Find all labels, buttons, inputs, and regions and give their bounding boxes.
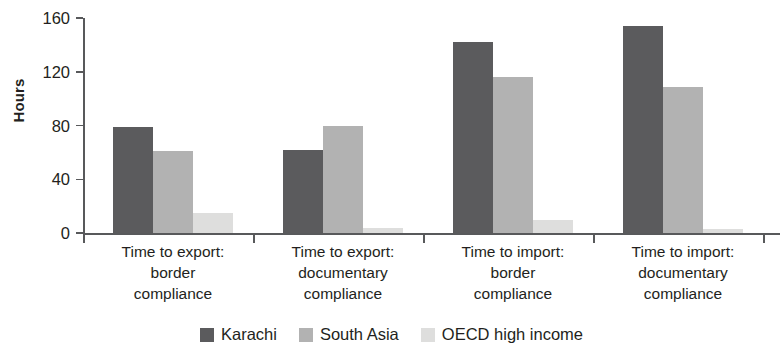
legend-item[interactable]: Karachi [200, 325, 277, 344]
legend-label: OECD high income [442, 325, 583, 344]
category-label-line: Time to import: [428, 241, 598, 262]
category-label-line: compliance [598, 283, 768, 304]
bar-group [453, 18, 573, 233]
legend-item[interactable]: OECD high income [421, 325, 583, 344]
y-axis-tick-label: 40 [52, 170, 70, 189]
y-axis-title: Hours [10, 61, 27, 141]
bar [663, 87, 703, 233]
x-axis-category-label: Time to export:documentarycompliance [258, 241, 428, 304]
bar-group [113, 18, 233, 233]
y-axis-tick: 0 [76, 232, 83, 234]
x-axis-category-label: Time to import:bordercompliance [428, 241, 598, 304]
y-axis-tick-label: 120 [42, 62, 70, 81]
category-label-line: border [88, 262, 258, 283]
bar [113, 127, 153, 233]
category-label-line: compliance [88, 283, 258, 304]
legend-item[interactable]: South Asia [299, 325, 399, 344]
x-axis-category-label: Time to export:bordercompliance [88, 241, 258, 304]
bar-chart: Hours 04080120160 Time to export:borderc… [0, 0, 783, 357]
plot-area: 04080120160 [83, 18, 780, 233]
bar [323, 126, 363, 234]
bar [453, 42, 493, 233]
y-axis-tick: 120 [76, 71, 83, 73]
x-axis-line [83, 233, 780, 235]
y-axis-tick-label: 80 [52, 116, 70, 135]
bar [153, 151, 193, 233]
category-label-line: compliance [258, 283, 428, 304]
chart-legend: KarachiSouth AsiaOECD high income [0, 325, 783, 344]
category-label-line: Time to import: [598, 241, 768, 262]
y-axis-tick: 40 [76, 179, 83, 181]
x-axis-category-labels: Time to export:bordercomplianceTime to e… [83, 241, 780, 313]
category-label-line: compliance [428, 283, 598, 304]
legend-label: Karachi [221, 325, 277, 344]
y-axis-tick-label: 160 [42, 9, 70, 28]
legend-label: South Asia [320, 325, 399, 344]
y-axis-line [83, 18, 85, 233]
bar [703, 229, 743, 233]
category-label-line: Time to export: [88, 241, 258, 262]
bar [193, 213, 233, 233]
legend-swatch [299, 328, 313, 342]
bar-group [283, 18, 403, 233]
bar [533, 220, 573, 233]
bar-group [623, 18, 743, 233]
category-label-line: Time to export: [258, 241, 428, 262]
bar [623, 26, 663, 233]
x-axis-category-label: Time to import:documentarycompliance [598, 241, 768, 304]
y-axis-tick-label: 0 [61, 224, 70, 243]
legend-swatch [421, 328, 435, 342]
legend-swatch [200, 328, 214, 342]
y-axis-tick: 80 [76, 125, 83, 127]
bar [363, 228, 403, 233]
category-label-line: documentary [598, 262, 768, 283]
y-axis-tick: 160 [76, 17, 83, 19]
category-label-line: documentary [258, 262, 428, 283]
bar [493, 77, 533, 233]
bar [283, 150, 323, 233]
category-label-line: border [428, 262, 598, 283]
